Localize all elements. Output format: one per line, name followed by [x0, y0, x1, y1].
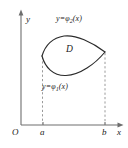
upper-curve-equation-head: y=φ	[56, 14, 70, 23]
upper-boundary-curve	[42, 36, 105, 56]
y-axis-label: y	[26, 15, 30, 24]
x-axis-label: x	[117, 128, 121, 137]
origin-label: O	[12, 128, 19, 137]
lower-curve-equation-head: y=φ	[42, 82, 56, 91]
x-tick-label-b: b	[102, 128, 107, 137]
lower-curve-equation-tail: (x)	[59, 82, 68, 91]
region-label-d: D	[66, 45, 73, 55]
lower-curve-equation-label: y=φ1(x)	[42, 83, 68, 92]
x-tick-label-a: a	[40, 128, 45, 137]
upper-curve-equation-label: y=φ2(x)	[56, 15, 82, 24]
lower-boundary-curve	[42, 52, 105, 76]
upper-curve-equation-tail: (x)	[73, 14, 82, 23]
y-axis-arrowhead	[19, 10, 24, 16]
math-figure: y x O a b y=φ2(x) y=φ1(x) D	[0, 0, 128, 148]
